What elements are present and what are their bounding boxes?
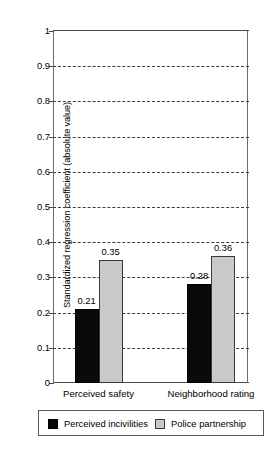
bar-chart-figure: Standardized regression coefficient (abs…: [0, 0, 277, 452]
legend-item-perceived-incivilities: Perceived incivilities: [48, 417, 148, 431]
bar: [187, 284, 211, 383]
legend-label: Perceived incivilities: [64, 419, 148, 429]
y-axis-tick-label: 0.3: [10, 272, 50, 281]
y-axis-tick-label: 0: [10, 378, 50, 387]
y-axis-tick-label: 0.4: [10, 237, 50, 246]
bar: [75, 309, 99, 383]
legend-label: Police partnership: [171, 419, 246, 429]
bar-value-label: 0.35: [91, 247, 131, 256]
y-axis-tick-label: 0.5: [10, 202, 50, 211]
bar-value-label: 0.36: [203, 243, 243, 252]
y-axis-tick-label: 0.7: [10, 132, 50, 141]
chart-legend: Perceived incivilities Police partnershi…: [38, 410, 264, 436]
gridline: [53, 207, 249, 208]
y-axis-tick-label: 1: [10, 26, 50, 35]
y-axis-tick-label: 0.6: [10, 167, 50, 176]
legend-item-police-partnership: Police partnership: [155, 417, 246, 431]
y-axis-tick-label: 0.1: [10, 343, 50, 352]
gridline: [53, 66, 249, 67]
gridline: [53, 172, 249, 173]
y-axis-tick-label: 0.9: [10, 61, 50, 70]
x-axis-category-label: Perceived safety: [39, 388, 159, 399]
bar: [99, 260, 123, 383]
x-axis-category-label: Neighborhood rating: [151, 388, 271, 399]
gridline: [53, 101, 249, 102]
bar: [211, 256, 235, 383]
dark-square-icon: [48, 419, 58, 429]
y-axis-tick-label: 0.2: [10, 308, 50, 317]
gridline: [53, 137, 249, 138]
light-square-icon: [155, 419, 165, 429]
y-axis-tick-label: 0.8: [10, 96, 50, 105]
